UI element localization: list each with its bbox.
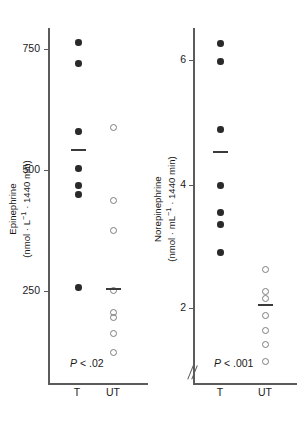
mean-bar-t	[213, 151, 228, 153]
y-axis-title-units-post: · 1440 min)	[166, 156, 177, 207]
p-value-symbol: P	[70, 357, 77, 369]
data-point	[217, 40, 224, 47]
data-point	[262, 312, 269, 319]
y-tick-500	[44, 170, 48, 171]
data-point	[262, 327, 269, 334]
y-axis-title-line1: Norepinephrine	[152, 139, 164, 279]
y-tick-250	[44, 291, 48, 292]
p-value-norepinephrine: P < .001	[214, 357, 253, 369]
group-label-t: T	[209, 386, 231, 398]
p-value-text: < .02	[77, 357, 104, 369]
y-tick-6	[189, 60, 193, 61]
y-axis-title-units-sup: −1	[164, 208, 173, 216]
panel-norepinephrine: 6 4 2 Norepinephrine (nmol · mL−1 · 1440…	[152, 0, 305, 425]
p-value-text: < .001	[221, 357, 253, 369]
figure-scatter-catecholamines: 750 500 250 Epinephrine (nmol · L−1 · 14…	[0, 0, 305, 425]
group-label-t: T	[66, 386, 88, 398]
data-point	[110, 197, 117, 204]
y-tick-label-250: 250	[8, 285, 40, 296]
data-point	[110, 349, 117, 356]
y-tick-label-6: 6	[164, 54, 186, 65]
y-axis-title-units-sup: −1	[19, 212, 28, 220]
y-axis-title-line2: (nmol · mL−1 · 1440 min)	[164, 139, 178, 279]
y-axis-title-units-post: · 1440 min)	[21, 160, 32, 211]
data-point	[75, 191, 82, 198]
data-point	[262, 288, 269, 295]
data-point	[217, 221, 224, 228]
data-point	[262, 295, 269, 302]
y-axis-title-line1: Epinephrine	[7, 139, 19, 279]
y-tick-label-2: 2	[164, 302, 186, 313]
y-axis-epinephrine	[48, 28, 50, 383]
mean-bar-ut	[106, 288, 121, 290]
group-label-ut: UT	[252, 386, 278, 398]
data-point	[75, 182, 82, 189]
data-point	[217, 126, 224, 133]
y-axis-title-line2: (nmol · L−1 · 1440 min)	[19, 139, 33, 279]
data-point	[110, 314, 117, 321]
y-tick-4	[189, 185, 193, 186]
panel-epinephrine: 750 500 250 Epinephrine (nmol · L−1 · 14…	[0, 0, 152, 425]
y-axis-title-units-pre: (nmol · L	[21, 220, 32, 258]
data-point	[75, 165, 82, 172]
y-axis-title-epinephrine: Epinephrine (nmol · L−1 · 1440 min)	[7, 139, 33, 279]
data-point	[110, 227, 117, 234]
x-axis-norepinephrine	[193, 383, 297, 385]
mean-bar-t	[71, 149, 86, 151]
axis-break-icon	[186, 365, 200, 383]
p-value-symbol: P	[214, 357, 221, 369]
data-point	[217, 58, 224, 65]
y-tick-label-750: 750	[8, 43, 40, 54]
data-point	[75, 284, 82, 291]
data-point	[110, 330, 117, 337]
data-point	[217, 209, 224, 216]
data-point	[262, 266, 269, 273]
data-point	[75, 128, 82, 135]
y-tick-750	[44, 49, 48, 50]
data-point	[217, 249, 224, 256]
y-axis-title-norepinephrine: Norepinephrine (nmol · mL−1 · 1440 min)	[152, 139, 178, 279]
y-tick-2	[189, 308, 193, 309]
mean-bar-ut	[258, 304, 273, 306]
p-value-epinephrine: P < .02	[70, 357, 104, 369]
y-axis-norepinephrine	[193, 28, 195, 383]
data-point	[75, 39, 82, 46]
data-point	[75, 60, 82, 67]
data-point	[262, 358, 269, 365]
group-label-ut: UT	[100, 386, 126, 398]
data-point	[262, 341, 269, 348]
y-axis-title-units-pre: (nmol · mL	[166, 216, 177, 262]
data-point	[110, 124, 117, 131]
x-axis-epinephrine	[48, 383, 148, 385]
data-point	[217, 182, 224, 189]
